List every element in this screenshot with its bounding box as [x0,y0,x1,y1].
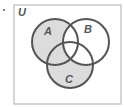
set-a-label: A [43,25,52,37]
set-b-label: B [84,23,92,35]
universe-label: U [18,6,27,18]
venn-diagram: U A B C [0,0,124,107]
set-c-label: C [65,73,74,85]
